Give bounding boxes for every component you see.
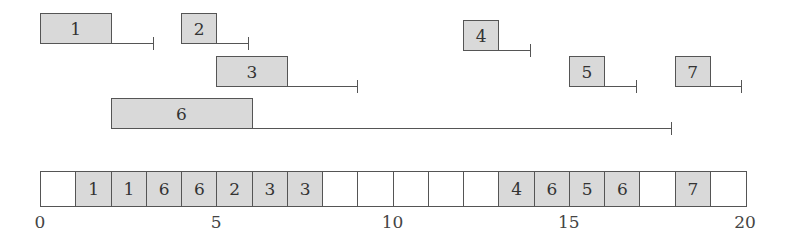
deadline-whisker-6 bbox=[252, 128, 671, 129]
job-label: 7 bbox=[687, 62, 698, 82]
slot-label: 1 bbox=[123, 179, 134, 199]
deadline-whisker-7 bbox=[710, 86, 742, 87]
timeline-slot bbox=[322, 171, 359, 207]
timeline-slot: 1 bbox=[111, 171, 148, 207]
timeline-slot: 7 bbox=[675, 171, 712, 207]
timeline-slot: 6 bbox=[146, 171, 183, 207]
axis-tick-label: 10 bbox=[382, 212, 404, 232]
slot-label: 6 bbox=[617, 179, 628, 199]
timeline-slot bbox=[393, 171, 430, 207]
deadline-whisker-5 bbox=[604, 86, 636, 87]
slot-label: 6 bbox=[546, 179, 557, 199]
slot-label: 1 bbox=[88, 179, 99, 199]
timeline-slot bbox=[357, 171, 394, 207]
slot-label: 5 bbox=[582, 179, 593, 199]
deadline-tick-2 bbox=[248, 37, 249, 50]
job-box-4: 4 bbox=[463, 20, 499, 51]
job-label: 6 bbox=[176, 104, 187, 124]
deadline-tick-5 bbox=[636, 80, 637, 93]
deadline-tick-1 bbox=[153, 37, 154, 50]
timeline-slot: 3 bbox=[252, 171, 289, 207]
job-box-3: 3 bbox=[216, 56, 288, 87]
timeline-slot bbox=[639, 171, 676, 207]
timeline-slot bbox=[463, 171, 500, 207]
slot-label: 6 bbox=[194, 179, 205, 199]
job-box-7: 7 bbox=[675, 56, 711, 87]
deadline-whisker-1 bbox=[111, 43, 153, 44]
slot-label: 6 bbox=[159, 179, 170, 199]
job-label: 4 bbox=[476, 26, 487, 46]
job-label: 1 bbox=[70, 19, 81, 39]
slot-label: 3 bbox=[300, 179, 311, 199]
axis-tick-label: 20 bbox=[734, 212, 756, 232]
slot-label: 4 bbox=[511, 179, 522, 199]
job-label: 2 bbox=[194, 19, 205, 39]
timeline-slot: 2 bbox=[216, 171, 253, 207]
deadline-tick-7 bbox=[741, 80, 742, 93]
deadline-whisker-3 bbox=[287, 86, 358, 87]
timeline-slot: 6 bbox=[534, 171, 571, 207]
timeline-slot bbox=[40, 171, 77, 207]
job-box-5: 5 bbox=[569, 56, 605, 87]
axis-tick-label: 0 bbox=[35, 212, 46, 232]
job-label: 3 bbox=[247, 62, 258, 82]
deadline-whisker-2 bbox=[216, 43, 248, 44]
job-label: 5 bbox=[581, 62, 592, 82]
timeline-slot: 3 bbox=[287, 171, 324, 207]
job-box-1: 1 bbox=[40, 13, 112, 44]
deadline-tick-4 bbox=[530, 44, 531, 57]
slot-label: 2 bbox=[229, 179, 240, 199]
timeline-slot: 6 bbox=[181, 171, 218, 207]
deadline-tick-3 bbox=[357, 80, 358, 93]
job-box-6: 6 bbox=[111, 98, 253, 129]
job-box-2: 2 bbox=[181, 13, 217, 44]
timeline-slot: 5 bbox=[569, 171, 606, 207]
slot-label: 7 bbox=[687, 179, 698, 199]
deadline-tick-6 bbox=[671, 122, 672, 135]
axis-tick-label: 15 bbox=[558, 212, 580, 232]
axis-tick-label: 5 bbox=[211, 212, 222, 232]
timeline-slot: 1 bbox=[75, 171, 112, 207]
timeline-slot bbox=[710, 171, 747, 207]
slot-label: 3 bbox=[264, 179, 275, 199]
timeline-slot: 4 bbox=[498, 171, 535, 207]
timeline-slot: 6 bbox=[604, 171, 641, 207]
timeline-slot bbox=[428, 171, 465, 207]
deadline-whisker-4 bbox=[498, 50, 530, 51]
